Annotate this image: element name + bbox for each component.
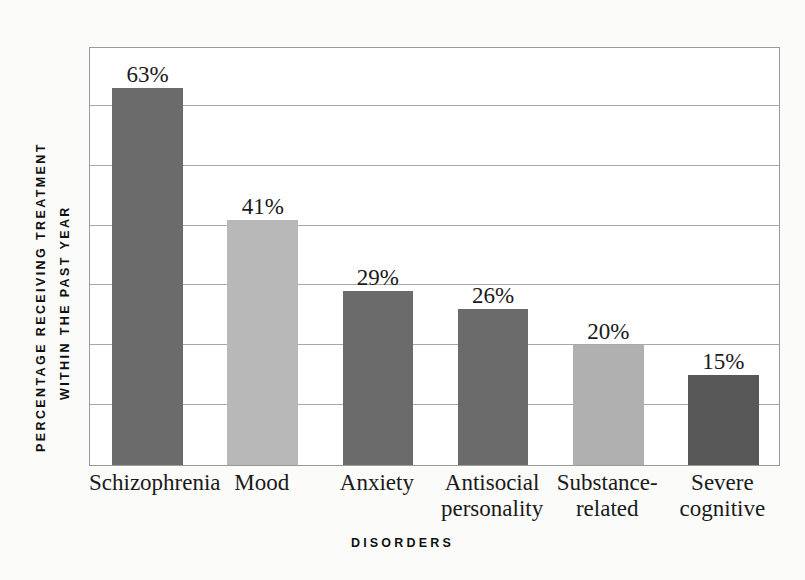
x-axis-tick-label-line: Antisocial — [435, 470, 550, 496]
x-axis-tick-label-line: Substance- — [550, 470, 665, 496]
y-axis-title-line-2: WITHIN THE PAST YEAR — [58, 205, 72, 400]
bar: 20% — [573, 345, 644, 465]
x-axis-tick-label: Mood — [204, 470, 319, 496]
x-axis-tick-labels: SchizophreniaMoodAnxietyAntisocialperson… — [89, 470, 780, 532]
y-axis-title-line-1: PERCENTAGE RECEIVING TREATMENT — [34, 142, 48, 452]
x-axis-tick-label-line: Schizophrenia — [89, 470, 204, 496]
plot-area: 63%41%29%26%20%15% — [89, 47, 780, 466]
x-axis-title: DISORDERS — [0, 536, 805, 550]
y-axis-title: PERCENTAGE RECEIVING TREATMENT WITHIN TH… — [0, 0, 80, 470]
bar-value-label: 41% — [242, 195, 284, 218]
x-axis-tick-label: Antisocialpersonality — [435, 470, 550, 522]
bar: 15% — [688, 375, 759, 465]
bar-chart: PERCENTAGE RECEIVING TREATMENT WITHIN TH… — [0, 0, 805, 580]
bar-value-label: 29% — [357, 266, 399, 289]
x-axis-tick-label-line: Anxiety — [319, 470, 434, 496]
bar: 63% — [112, 88, 183, 465]
x-axis-tick-label: Anxiety — [319, 470, 434, 496]
bar-value-label: 15% — [702, 350, 744, 373]
x-axis-tick-label: Substance-related — [550, 470, 665, 522]
bar-value-label: 63% — [126, 63, 168, 86]
bar: 41% — [227, 220, 298, 465]
x-axis-tick-label-line: Mood — [204, 470, 319, 496]
x-axis-tick-label-line: Severe — [665, 470, 780, 496]
bar: 29% — [343, 291, 414, 465]
bar-value-label: 26% — [472, 284, 514, 307]
x-axis-tick-label: Schizophrenia — [89, 470, 204, 496]
bar: 26% — [458, 309, 529, 465]
x-axis-tick-label-line: related — [550, 496, 665, 522]
bar-series: 63%41%29%26%20%15% — [90, 48, 779, 465]
x-axis-tick-label: Severecognitive — [665, 470, 780, 522]
bar-value-label: 20% — [587, 320, 629, 343]
x-axis-tick-label-line: cognitive — [665, 496, 780, 522]
x-axis-tick-label-line: personality — [435, 496, 550, 522]
